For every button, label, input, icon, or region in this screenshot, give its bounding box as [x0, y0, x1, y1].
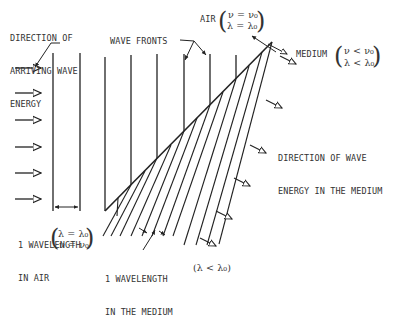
- medium-wave-fronts: [103, 42, 272, 245]
- wl-medium-label: 1 WAVELENGTH IN THE MEDIUM: [105, 252, 173, 319]
- wl-air-line-2: IN AIR: [18, 273, 81, 284]
- air-eq-1: ν = ν₀: [228, 9, 258, 20]
- air-label: AIR: [200, 14, 216, 25]
- medium-label: MEDIUM: [296, 49, 327, 60]
- wl-air-eq-1: λ = λ₀: [58, 228, 88, 239]
- medium-paren-left: (: [334, 44, 343, 68]
- medium-eq-2: λ < λ₀: [344, 57, 374, 68]
- medium-eq-1: ν < ν₀: [344, 45, 374, 56]
- wl-medium-line-2: IN THE MEDIUM: [105, 307, 173, 318]
- air-paren-right: ): [256, 9, 265, 33]
- direction-medium-line-1: DIRECTION OF WAVE: [278, 153, 382, 164]
- arriving-label: DIRECTION OF ARRIVING WAVE ENERGY: [10, 11, 78, 121]
- arriving-line-2: ARRIVING WAVE: [10, 66, 78, 77]
- air-paren-left: (: [218, 9, 227, 33]
- wl-air-paren-right: ): [85, 226, 94, 250]
- wave-fronts-label: WAVE FRONTS: [110, 36, 167, 47]
- arriving-line-3: ENERGY: [10, 99, 78, 110]
- direction-medium-label: DIRECTION OF WAVE ENERGY IN THE MEDIUM: [278, 131, 382, 208]
- wl-medium-dimension: [139, 228, 165, 250]
- direction-medium-line-2: ENERGY IN THE MEDIUM: [278, 186, 382, 197]
- air-eq-2: λ = λ₀: [227, 20, 257, 31]
- medium-paren-right: ): [372, 44, 381, 68]
- wl-medium-line-1: 1 WAVELENGTH: [105, 274, 173, 285]
- wl-medium-eq: (λ < λ₀): [193, 262, 231, 273]
- arriving-line-1: DIRECTION OF: [10, 33, 78, 44]
